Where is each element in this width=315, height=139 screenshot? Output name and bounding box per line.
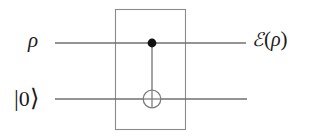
input-label-ket-zero: |0⟩ — [14, 86, 39, 110]
output-label-channel: ℰ(ρ) — [252, 29, 288, 50]
output-open-paren: ( — [264, 27, 271, 51]
quantum-circuit-diagram — [0, 0, 315, 139]
output-close-paren: ) — [281, 27, 288, 51]
script-e-symbol: ℰ — [252, 28, 264, 50]
figure-background — [0, 0, 315, 139]
ket-value: 0 — [19, 86, 30, 111]
output-rho-symbol: ρ — [271, 28, 281, 50]
input-label-rho: ρ — [28, 30, 38, 51]
ket-right-angle: ⟩ — [30, 85, 39, 111]
cnot-control-dot — [148, 39, 157, 48]
